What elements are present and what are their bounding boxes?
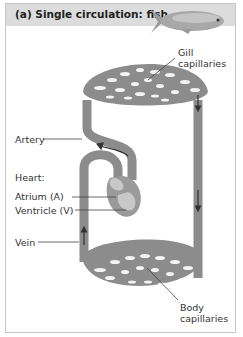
flow-arrows: [82, 95, 201, 245]
label-heart: Heart:: [15, 172, 45, 183]
body-capillary-bed: [82, 240, 202, 286]
arrow-left-icon: [97, 143, 103, 149]
fish-icon: [151, 10, 224, 34]
label-atrium: Atrium (A): [15, 191, 64, 202]
circulation-diagram: [0, 0, 243, 337]
label-gill: Gill: [178, 47, 193, 58]
label-artery: Artery: [15, 134, 45, 145]
label-body: Body: [180, 302, 204, 313]
label-body-2: capillaries: [180, 313, 228, 324]
label-gill-2: capillaries: [178, 58, 226, 69]
label-ventricle: Ventricle (V): [15, 205, 74, 216]
label-vein: Vein: [15, 237, 35, 248]
vessel-artery: [87, 100, 132, 180]
gill-capillary-bed: [83, 64, 208, 105]
